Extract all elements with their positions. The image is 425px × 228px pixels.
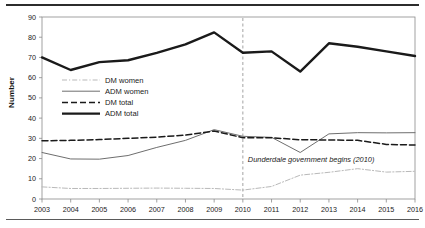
x-tick-label: 2009 [206,205,222,214]
axes-group [42,17,415,199]
y-tick-label: 90 [28,13,36,22]
x-tick-label: 2013 [321,205,337,214]
legend-label-adm-total: ADM total [105,109,139,118]
x-tick-label: 2010 [235,205,251,214]
y-tick-label: 80 [28,33,36,42]
legend-label-adm-women: ADM women [105,87,148,96]
x-tick-label: 2016 [407,205,423,214]
x-tick-label: 2004 [63,205,79,214]
y-tick-label: 30 [28,134,36,143]
chart-legend: DM womenADM womenDM totalADM total [62,76,148,119]
y-tick-label: 60 [28,73,36,82]
x-tick-label: 2015 [378,205,394,214]
x-tick-label: 2007 [149,205,165,214]
y-tick-label: 20 [28,154,36,163]
x-tick-labels: 2003200420052006200720082009201020112012… [34,199,423,214]
y-tick-label: 0 [32,195,36,204]
plot-frame [42,17,415,199]
x-tick-label: 2012 [292,205,308,214]
x-tick-label: 2003 [34,205,50,214]
x-tick-label: 2014 [350,205,366,214]
y-tick-label: 50 [28,93,36,102]
series-line-adm-total [42,32,415,71]
y-tick-label: 70 [28,53,36,62]
legend-label-dm-total: DM total [105,98,134,107]
series-line-dm-women [42,169,415,190]
annotation-group: Dunderdale government begins (2010) [248,155,375,164]
y-tick-labels: 0102030405060708090 [28,13,42,204]
legend-label-dm-women: DM women [105,76,143,85]
figure-container: Number 0102030405060708090 2003200420052… [0,0,425,228]
y-tick-label: 10 [28,174,36,183]
x-tick-label: 2008 [177,205,193,214]
x-tick-label: 2011 [264,205,279,214]
chart-annotation: Dunderdale government begins (2010) [248,155,375,164]
bottom-rule [6,219,419,220]
x-tick-label: 2006 [120,205,136,214]
y-tick-label: 40 [28,114,36,123]
x-tick-label: 2005 [91,205,107,214]
line-chart: 0102030405060708090 20032004200520062007… [0,0,425,228]
top-rule [6,4,419,6]
data-series-group [42,32,415,190]
y-axis-title: Number [7,63,16,123]
